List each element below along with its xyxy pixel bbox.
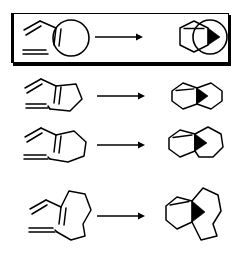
tether-chain: [57, 191, 91, 240]
product-structure-2: [170, 79, 226, 113]
diene-bond-e: [59, 29, 61, 46]
diene-bond-e: [64, 208, 66, 225]
diene-bond-c: [40, 21, 56, 28]
alkene-inner-line: [170, 202, 189, 206]
reaction-arrow-4: [97, 210, 145, 222]
stereo-wedge-bond: [208, 28, 220, 45]
diene-bond-d: [54, 86, 56, 103]
stereo-wedge-bond: [195, 134, 207, 151]
diene-bond-e: [59, 87, 61, 104]
reaction-row-2: [0, 72, 241, 120]
reaction-row-4: [0, 182, 241, 252]
cyclohexene-ring: [169, 130, 195, 157]
alkene-inner-line: [173, 135, 192, 138]
reactant-structure-3: [22, 124, 98, 168]
stereo-wedge-bond: [192, 201, 205, 222]
diene-bond-c: [41, 128, 56, 135]
arrow-head: [138, 141, 145, 148]
diene-bond-e: [59, 136, 61, 153]
reaction-row-3: [0, 120, 241, 170]
reaction-arrow-1: [95, 31, 143, 43]
reaction-row-1: [0, 0, 241, 70]
diene-bond-d: [59, 207, 61, 224]
product-structure-4: [163, 184, 227, 244]
product-structure-3: [167, 124, 227, 164]
arrow-head: [138, 92, 145, 99]
stereo-wedge-bond: [197, 88, 208, 104]
diene-bond-d: [54, 135, 56, 152]
arrow-head: [138, 212, 145, 219]
reactant-structure-2: [22, 76, 94, 118]
product-structure-1: [172, 15, 230, 61]
alkene-inner-line: [176, 89, 194, 91]
reaction-scheme-figure: [0, 0, 241, 256]
generic-ring-circle-icon: [53, 20, 89, 56]
reactant-structure-1: [18, 15, 96, 61]
reaction-arrow-2: [97, 90, 145, 102]
arrow-head: [136, 33, 143, 40]
diene-bond-c: [41, 79, 56, 86]
cyclohexene-ring: [180, 21, 208, 52]
reaction-arrow-3: [97, 139, 145, 151]
cyclohexene-ring: [172, 83, 197, 109]
highlight-box-shadow-left: [11, 13, 14, 63]
diene-bond-c: [46, 200, 61, 207]
reactant-structure-4: [27, 186, 105, 246]
